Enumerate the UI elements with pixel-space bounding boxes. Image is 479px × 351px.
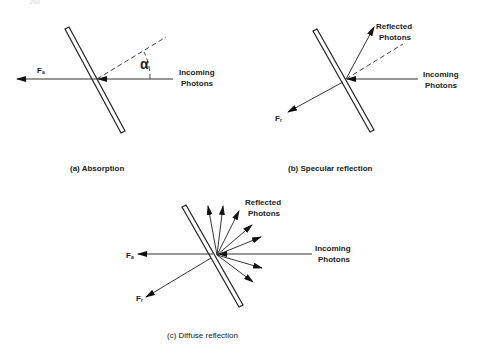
panel-diffuse-reflection: Fa Fr Reflected Photons Incoming Photons… [126, 198, 351, 340]
force-label: Fr [275, 114, 282, 123]
caption-c: (c) Diffuse reflection [167, 331, 238, 340]
panel-absorption: α Fa Incoming Photons (a) Absorption [17, 27, 215, 173]
solar-pressure-diagram: 290 α Fa Incoming Photons (a) Absorption… [0, 0, 479, 351]
caption-a: (a) Absorption [70, 164, 124, 173]
incoming-label-1: Incoming [423, 70, 459, 79]
force-r-label: Fr [136, 294, 143, 303]
reflected-label-1: Reflected [245, 198, 281, 207]
reflected-label-2: Photons [248, 209, 281, 218]
alpha-label: α [140, 56, 149, 72]
force-label: Fa [37, 66, 45, 75]
normal-dashed-line [97, 37, 166, 79]
incoming-label-1: Incoming [315, 244, 351, 253]
incoming-label-2: Photons [318, 255, 351, 264]
page-number: 290 [30, 0, 41, 5]
incoming-label-2: Photons [181, 79, 214, 88]
reflected-label-2: Photons [379, 33, 412, 42]
force-a-label: Fa [126, 251, 134, 260]
incoming-label-2: Photons [425, 81, 458, 90]
reflected-photons-arrow [346, 27, 374, 79]
panel-specular-reflection: Fr Reflected Photons Incoming Photons (b… [275, 22, 459, 173]
reflection-force-arrow [288, 82, 343, 112]
incoming-label-1: Incoming [179, 68, 215, 77]
plate [65, 27, 125, 133]
normal-dashed-line [346, 44, 403, 79]
caption-b: (b) Specular reflection [288, 164, 373, 173]
reflected-label-1: Reflected [376, 22, 412, 31]
reflection-force-arrow [146, 258, 211, 297]
